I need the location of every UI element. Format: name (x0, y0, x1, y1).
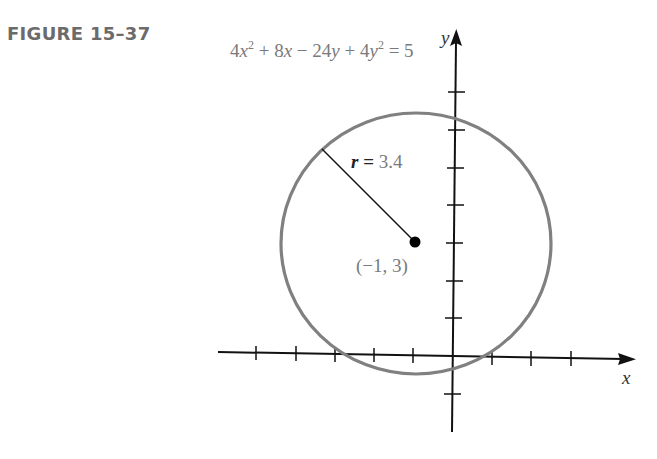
equation: 4x2 + 8x − 24y + 4y2 = 5 (230, 38, 414, 61)
circle-plot: 4x2 + 8x − 24y + 4y2 = 5 x (0, 0, 657, 459)
y-axis-label: y (439, 27, 450, 48)
x-axis: x (218, 346, 636, 388)
center-label: (−1, 3) (356, 255, 408, 277)
radius-label: r = 3.4 (351, 151, 403, 172)
x-arrow-icon (618, 353, 636, 365)
x-ticks (256, 346, 571, 366)
center-point (410, 237, 421, 248)
x-axis-label: x (621, 367, 631, 388)
